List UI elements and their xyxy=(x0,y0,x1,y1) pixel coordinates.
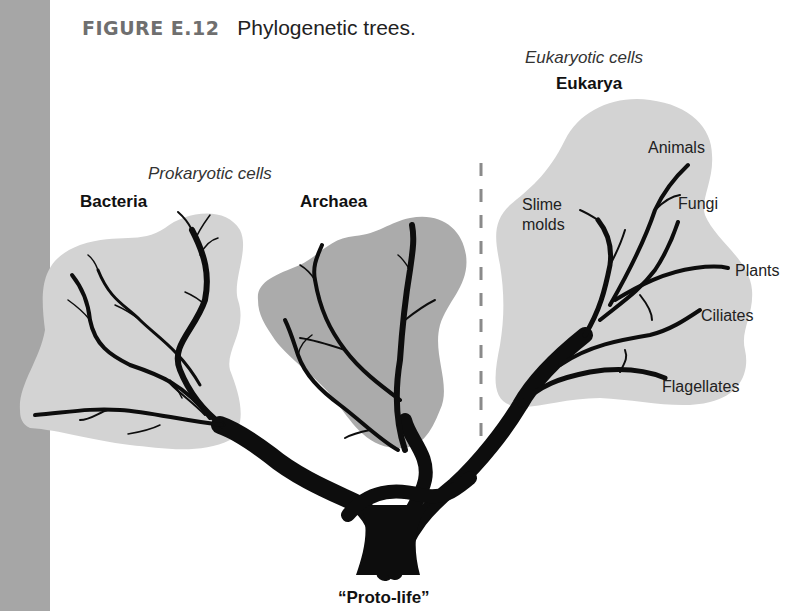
eukarya-blob xyxy=(496,99,753,407)
clade-ciliates-label: Ciliates xyxy=(701,306,753,326)
domain-eukarya-label: Eukarya xyxy=(556,74,622,94)
clade-slime-molds-line1: Slime xyxy=(522,195,565,215)
domain-bacteria-label: Bacteria xyxy=(80,192,147,212)
prokaryotic-cells-label: Prokaryotic cells xyxy=(148,164,272,184)
clade-slime-molds-label: Slime molds xyxy=(522,195,565,235)
domain-archaea-label: Archaea xyxy=(300,192,367,212)
clade-slime-molds-line2: molds xyxy=(522,215,565,235)
clade-animals-label: Animals xyxy=(648,138,705,158)
clade-plants-label: Plants xyxy=(735,261,779,281)
clade-flagellates-label: Flagellates xyxy=(662,377,739,397)
eukaryotic-cells-label: Eukaryotic cells xyxy=(525,48,643,68)
clade-fungi-label: Fungi xyxy=(678,194,718,214)
root-proto-life-label: “Proto-life” xyxy=(338,588,430,608)
phylogenetic-tree-diagram xyxy=(0,0,806,611)
